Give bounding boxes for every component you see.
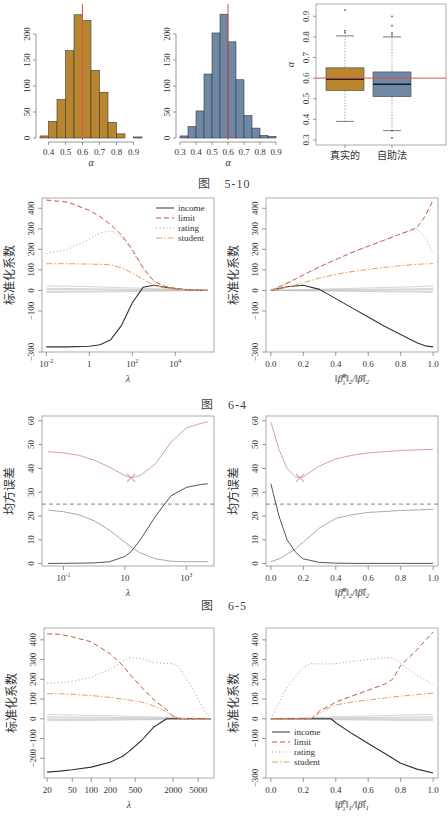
histogram-bar [188,127,196,138]
svg-text:104: 104 [169,358,181,369]
legend-limit: limit [294,737,312,747]
svg-text:0.9: 0.9 [128,147,140,157]
histogram-bar [220,14,228,138]
mse-lambda-svg: 010203040506010-110103均方误差λ [0,416,224,596]
svg-text:标准化系数: 标准化系数 [2,245,17,305]
ridge-coef-vs-lambda: −300−100010020030040010-21102104标准化系数λin… [0,192,224,394]
svg-text:2000: 2000 [164,785,183,795]
legend-rating: rating [178,223,199,233]
lasso-coef-vs-norm: −300−10001002003004000.00.20.40.60.81.0标… [224,618,448,822]
svg-text:0.4: 0.4 [330,573,342,583]
svg-text:300: 300 [26,222,36,236]
svg-text:0.4: 0.4 [301,113,311,125]
series-variance [271,509,433,561]
series-limit [271,200,433,290]
lasso-norm-svg: −300−10001002003004000.00.20.40.60.81.0标… [224,618,448,822]
svg-text:0.5: 0.5 [206,147,218,157]
svg-text:0.2: 0.2 [298,359,309,369]
lasso-lambda-svg: −200−10001002003004002050100200500200050… [0,618,224,822]
caption-prefix: 图 [201,599,214,613]
svg-text:20: 20 [43,785,53,795]
svg-text:0.4: 0.4 [190,147,202,157]
svg-text:50: 50 [26,440,36,449]
svg-text:0.4: 0.4 [330,785,342,795]
histogram-bar [74,15,83,138]
svg-text:200: 200 [250,672,260,686]
series-rating [271,658,433,719]
svg-text:0.8: 0.8 [395,785,407,795]
ridge-coef-vs-norm: −300−10001002003004000.00.20.40.60.81.0标… [224,192,448,394]
series-income [271,285,433,347]
svg-text:0.9: 0.9 [270,147,282,157]
svg-text:0: 0 [26,288,36,293]
svg-text:50: 50 [250,440,260,449]
svg-text:40: 40 [250,463,260,473]
svg-text:均方误差: 均方误差 [2,467,17,515]
svg-text:100: 100 [22,79,32,93]
svg-text:0.2: 0.2 [298,573,309,583]
svg-text:α: α [225,157,231,168]
svg-text:0.8: 0.8 [395,359,407,369]
svg-text:200: 200 [26,242,36,256]
series-limit [271,632,433,719]
svg-text:−100: −100 [250,301,260,320]
svg-text:1: 1 [87,359,92,369]
figure-caption-6-5: 图 6-5 [0,596,448,614]
svg-text:300: 300 [250,222,260,236]
series-rating [271,229,433,291]
svg-text:标准化系数: 标准化系数 [226,673,241,733]
series-limit [47,634,211,719]
series-test-MSE [271,422,433,478]
svg-text:0: 0 [22,135,32,140]
svg-text:400: 400 [250,201,260,215]
svg-text:1.0: 1.0 [428,785,440,795]
histogram-bar [268,136,276,138]
svg-text:200: 200 [250,242,260,256]
series-income [47,719,211,772]
svg-text:300: 300 [250,652,260,666]
svg-text:400: 400 [250,633,260,647]
svg-text:0: 0 [28,716,38,721]
svg-text:0: 0 [250,716,260,721]
svg-text:50: 50 [22,107,32,117]
svg-text:−300: −300 [26,342,36,361]
svg-text:10: 10 [120,573,130,583]
lasso-coef-vs-lambda: −200−10001002003004002050100200500200050… [0,618,224,822]
svg-text:20: 20 [26,511,36,521]
histogram-bar [49,121,58,138]
svg-text:−300: −300 [250,342,260,361]
histogram-bar [260,135,268,138]
caption-number: 5-10 [225,177,251,191]
legend-income: income [178,203,205,213]
svg-text:均方误差: 均方误差 [226,467,241,515]
series-rating [47,658,211,719]
svg-text:150: 150 [162,53,172,67]
boxplot-svg: 0.30.40.50.60.70.80.9α真实的自助法 [290,0,448,165]
svg-text:λ: λ [125,373,131,384]
histogram-bar [40,136,49,138]
svg-text:400: 400 [26,201,36,215]
svg-text:0: 0 [250,288,260,293]
caption-prefix: 图 [198,177,211,191]
svg-text:0.7: 0.7 [301,51,311,63]
svg-text:0.6: 0.6 [363,573,375,583]
svg-text:−100: −100 [28,729,38,748]
svg-text:0.5: 0.5 [301,93,311,105]
svg-text:400: 400 [28,633,38,647]
legend-student: student [294,757,320,767]
minimum-marker-icon [127,474,135,482]
svg-text:50: 50 [162,107,172,117]
caption-number: 6-4 [228,398,247,412]
histogram-true-alpha: 0501001502000.40.50.60.70.80.9α [0,0,150,165]
svg-text:‖β̂λL‖1/‖β̂‖1: ‖β̂λL‖1/‖β̂‖1 [335,799,369,812]
svg-text:100: 100 [28,692,38,706]
svg-text:0.3: 0.3 [174,147,186,157]
svg-text:30: 30 [26,487,36,497]
mse-vs-norm: 01020304050600.00.20.40.60.81.0均方误差‖β̂λR… [224,416,448,596]
series-income [46,285,207,347]
svg-text:100: 100 [250,692,260,706]
svg-text:5000: 5000 [189,785,208,795]
svg-text:0.0: 0.0 [265,785,277,795]
svg-text:200: 200 [28,672,38,686]
svg-text:10: 10 [26,535,36,545]
